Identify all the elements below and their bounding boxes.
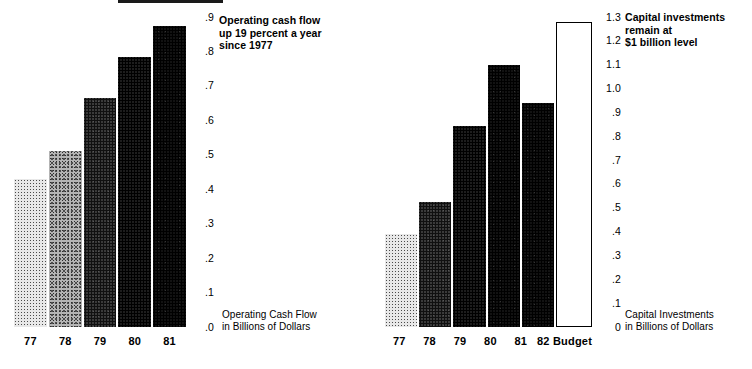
y-tick-label: .5 [595, 203, 621, 214]
y-tick-label: .9 [595, 107, 621, 118]
bar-81 [153, 26, 186, 327]
bar-slot-81 [522, 17, 554, 327]
y-tick-label: .4 [188, 184, 214, 195]
operating-cash-flow-headline: Operating cash flow up 19 percent a year… [219, 14, 369, 52]
y-tick-label: .0 [188, 322, 214, 333]
y-tick-label: 1.0 [595, 83, 621, 94]
bar-slot-79 [453, 17, 485, 327]
bar-80 [488, 65, 520, 327]
x-tick-label-80: 80 [476, 336, 504, 347]
bar-78 [49, 151, 82, 327]
x-tick-label-77: 77 [14, 336, 47, 347]
y-tick-label: .8 [595, 131, 621, 142]
y-tick-label: .8 [188, 46, 214, 57]
operating-cash-flow-bar-group [14, 17, 186, 327]
x-tick-label-78: 78 [415, 336, 443, 347]
bar-78 [419, 202, 451, 327]
bar-slot-80 [118, 17, 151, 327]
x-tick-label-78: 78 [49, 336, 82, 347]
y-tick-label: .7 [188, 81, 214, 92]
bar-82-budget [556, 22, 592, 327]
operating-cash-flow-plot-area [14, 17, 186, 327]
bar-79 [453, 126, 485, 328]
y-tick-label: .7 [595, 155, 621, 166]
y-tick-label: .5 [188, 150, 214, 161]
bar-slot-80 [488, 17, 520, 327]
y-tick-label: 1.1 [595, 59, 621, 70]
bar-slot-81 [153, 17, 186, 327]
capital-investments-plot-area [385, 17, 592, 327]
y-tick-label: .1 [595, 298, 621, 309]
capital-investments-x-axis: 777879808182 Budget [385, 336, 592, 347]
y-tick-label: .9 [188, 12, 214, 23]
bar-slot-78 [49, 17, 82, 327]
y-tick-label: .3 [188, 218, 214, 229]
bar-79 [84, 98, 117, 327]
x-tick-label-81: 81 [153, 336, 186, 347]
x-tick-label-80: 80 [118, 336, 151, 347]
y-tick-label: 1.3 [595, 12, 621, 23]
y-tick-label: .4 [595, 226, 621, 237]
operating-cash-flow-caption: Operating Cash Flow in Billions of Dolla… [222, 309, 372, 333]
y-tick-label: .2 [188, 253, 214, 264]
operating-cash-flow-x-axis: 7778798081 [14, 336, 186, 347]
bar-slot-82-budget [556, 17, 592, 327]
y-tick-label: 0 [595, 322, 621, 333]
capital-investments-chart: Capital investments remain at $1 billion… [376, 0, 752, 369]
operating-cash-flow-chart: Operating cash flow up 19 percent a year… [0, 0, 376, 369]
x-tick-label-77: 77 [385, 336, 413, 347]
y-tick-label: .1 [188, 287, 214, 298]
bar-slot-77 [385, 17, 417, 327]
bar-77 [385, 234, 417, 327]
capital-investments-headline: Capital investments remain at $1 billion… [625, 11, 752, 49]
x-tick-label-79: 79 [84, 336, 117, 347]
capital-investments-y-axis: 1.31.21.11.0.9.8.7.6.5.4.3.2.10 [595, 17, 621, 327]
operating-cash-flow-y-axis: .9.8.7.6.5.4.3.2.1.0 [188, 17, 214, 327]
y-tick-label: .6 [595, 179, 621, 190]
bar-81 [522, 103, 554, 327]
x-tick-label-79: 79 [446, 336, 474, 347]
capital-investments-bar-group [385, 17, 592, 327]
bar-80 [118, 57, 151, 327]
capital-investments-caption: Capital Investments in Billions of Dolla… [625, 309, 752, 333]
bar-slot-78 [419, 17, 451, 327]
y-tick-label: .2 [595, 274, 621, 285]
bar-slot-77 [14, 17, 47, 327]
y-tick-label: .6 [188, 115, 214, 126]
x-tick-label-81: 81 [507, 336, 535, 347]
x-tick-label-82-budget: 82 Budget [537, 336, 592, 347]
y-tick-label: .3 [595, 250, 621, 261]
y-tick-label: 1.2 [595, 36, 621, 47]
bar-slot-79 [84, 17, 117, 327]
bar-77 [14, 179, 47, 327]
